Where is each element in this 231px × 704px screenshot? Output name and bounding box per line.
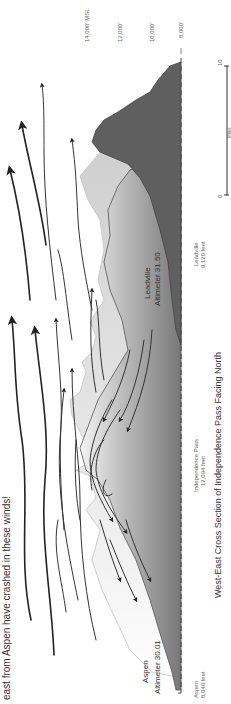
pass-name: Independence Pass	[193, 439, 199, 492]
leadville-name: Leadville	[193, 242, 199, 266]
aspen-name: Aspen	[193, 681, 199, 698]
altitude-label-14000: 14,000' MSL	[84, 8, 90, 42]
leadville-altimeter-name: Leadville	[143, 267, 152, 299]
cross-section-diagram: east from Aspen have crashed in these wi…	[0, 0, 231, 704]
altitude-label-12000: 12,000'	[117, 23, 123, 43]
diagram-title: West-East Cross Section of Independence …	[213, 352, 223, 598]
caption-text: east from Aspen have crashed in these wi…	[1, 496, 12, 700]
scale-unit-miles: Miles	[227, 127, 231, 138]
distance-scale: 0 10 Miles	[217, 59, 231, 198]
pass-elevation: 12,094 feet	[200, 456, 206, 486]
altitude-label-8000: 8,000'	[178, 22, 184, 38]
scale-label-10: 10	[217, 59, 223, 66]
leadville-altimeter-value: Altimeter 31.50	[153, 252, 162, 306]
leadville-elevation: 9,120 feet	[200, 241, 206, 268]
altitude-label-10000: 10,000'	[149, 23, 155, 43]
aspen-elevation: 8,049 feet	[200, 671, 206, 698]
scale-label-0: 0	[217, 194, 223, 198]
aspen-altimeter-value: Altimeter 30.01	[153, 640, 162, 694]
aspen-altimeter-name: Aspen	[141, 660, 150, 683]
